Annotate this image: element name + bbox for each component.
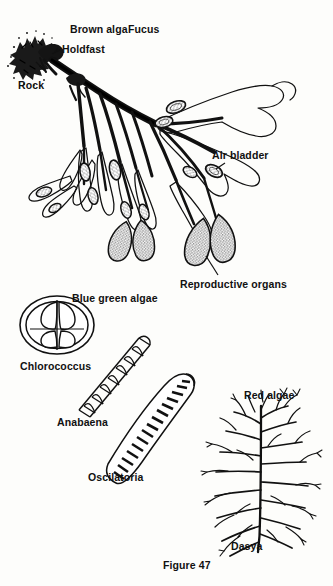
- oscilatoria-diagram: [107, 374, 195, 484]
- reproductive-organ-group: [105, 212, 238, 267]
- figure-page: Brown alga Fucus Holdfast Rock Air bladd…: [0, 0, 333, 586]
- label-blue-green-algae: Blue green algae: [72, 293, 158, 304]
- label-oscilatoria: Oscilatoria: [88, 472, 143, 483]
- dasya-diagram: [201, 388, 322, 556]
- label-chlorococcus: Chlorococcus: [20, 361, 91, 372]
- stipe-node: [66, 73, 86, 100]
- label-dasya: Dasya: [231, 541, 262, 552]
- label-holdfast: Holdfast: [62, 44, 105, 55]
- figure-caption: Figure 47: [163, 560, 211, 571]
- label-brown-alga: Brown alga: [70, 24, 128, 35]
- label-fucus: Fucus: [128, 24, 159, 35]
- label-red-algae: Red algae: [244, 390, 295, 401]
- figure-illustration: [0, 0, 333, 586]
- label-reproductive-organs: Reproductive organs: [180, 279, 287, 290]
- label-rock: Rock: [18, 80, 44, 91]
- label-anabaena: Anabaena: [57, 417, 108, 428]
- chlorococcus-diagram: [20, 296, 94, 354]
- anabaena-diagram: [79, 336, 150, 417]
- label-air-bladder: Air bladder: [212, 150, 269, 161]
